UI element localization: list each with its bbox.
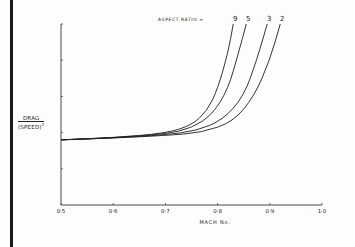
axes bbox=[61, 24, 322, 205]
curve-ar-2 bbox=[61, 24, 280, 140]
curves bbox=[61, 24, 280, 140]
x-tick-label: 1·0 bbox=[318, 208, 327, 214]
plot-area: 0·50·60·70·80·91·0MACH No.ASPECT RATIO =… bbox=[0, 0, 355, 247]
legend-title: ASPECT RATIO = bbox=[158, 17, 204, 22]
curve-label-ar-9: 9 bbox=[233, 15, 237, 23]
curve-ar-5 bbox=[61, 24, 246, 140]
x-tick-label: 0·8 bbox=[213, 208, 222, 214]
x-tick-label: 0·9 bbox=[265, 208, 274, 214]
x-axis-label: MACH No. bbox=[199, 219, 230, 225]
x-tick-label: 0·5 bbox=[57, 208, 66, 214]
x-tick-label: 0·6 bbox=[109, 208, 118, 214]
text-labels: 0·50·60·70·80·91·0MACH No.ASPECT RATIO =… bbox=[57, 15, 327, 225]
curve-ar-9 bbox=[61, 24, 233, 140]
curve-label-ar-2: 2 bbox=[280, 15, 284, 23]
curve-ar-3 bbox=[61, 24, 267, 140]
curve-label-ar-5: 5 bbox=[246, 15, 250, 23]
curve-label-ar-3: 3 bbox=[267, 15, 271, 23]
x-tick-label: 0·7 bbox=[161, 208, 170, 214]
